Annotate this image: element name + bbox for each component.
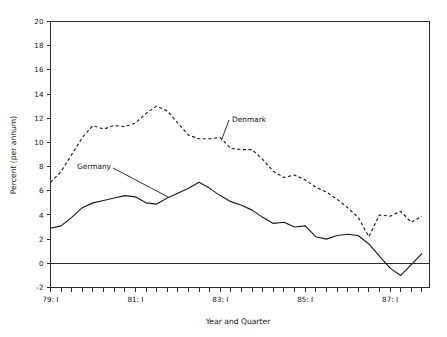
y-tick-label: 0 xyxy=(39,259,44,268)
series-line-denmark xyxy=(51,106,422,237)
y-axis-tick-group: 20181614121086420-2 xyxy=(34,17,50,292)
series-line-germany xyxy=(51,182,422,275)
chart-figure: 20181614121086420-2 79: I81: I83: I85: I… xyxy=(0,0,447,337)
y-tick-label: 20 xyxy=(34,17,44,26)
y-axis-title: Percent (per annum) xyxy=(9,116,18,194)
y-tick-label: 2 xyxy=(39,235,44,244)
x-tick-label: 83: I xyxy=(212,295,228,304)
x-tick-label: 87: I xyxy=(382,295,398,304)
y-tick-label: 16 xyxy=(34,65,44,74)
y-tick-label: 14 xyxy=(34,90,44,99)
y-tick-label: 10 xyxy=(34,138,44,147)
x-tick-label: 81: I xyxy=(127,295,143,304)
germany-leader-line xyxy=(113,168,168,197)
line-chart-canvas: 20181614121086420-2 79: I81: I83: I85: I… xyxy=(0,0,447,337)
x-axis-tick-group: 79: I81: I83: I85: I87: I xyxy=(43,288,422,304)
y-tick-label: 6 xyxy=(39,186,44,195)
x-tick-label: 79: I xyxy=(43,295,59,304)
denmark-leader-line xyxy=(221,120,229,141)
y-tick-label: 4 xyxy=(39,211,44,220)
y-tick-label: 8 xyxy=(39,162,44,171)
y-tick-label: 12 xyxy=(34,114,43,123)
y-tick-label: 18 xyxy=(34,41,44,50)
x-tick-label: 85: I xyxy=(297,295,313,304)
series-label-germany: Germany xyxy=(77,162,112,171)
series-label-denmark: Denmark xyxy=(232,115,267,124)
y-tick-label: -2 xyxy=(36,283,43,292)
x-axis-title: Year and Quarter xyxy=(205,317,271,326)
